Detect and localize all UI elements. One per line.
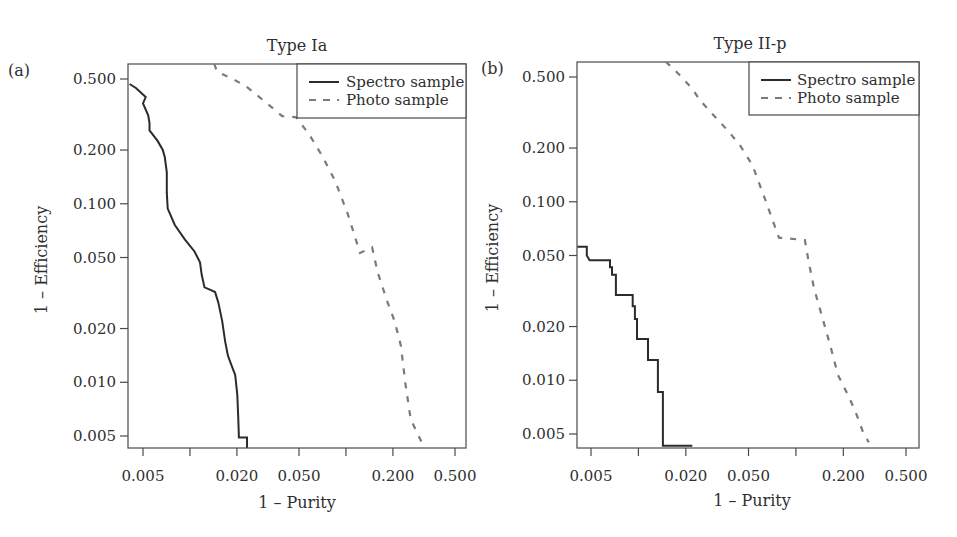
chart-canvas: (a) Type Ia 1 – Purity 1 – Efficiency 0.…	[0, 0, 957, 537]
x-tick-label: 0.200	[371, 467, 414, 485]
x-tick-label: 0.020	[215, 467, 258, 485]
series-group	[577, 62, 868, 446]
y-axis: 0.5000.2000.1000.0500.0200.0100.005	[73, 70, 128, 445]
photo-sample-line	[666, 62, 869, 443]
y-axis-title: 1 – Efficiency	[32, 206, 51, 314]
spectro-sample-line	[130, 84, 247, 448]
x-tick-label: 0.200	[822, 467, 865, 485]
panel-title: Type II-p	[714, 34, 787, 53]
legend-label-spectro: Spectro sample	[346, 73, 464, 91]
y-axis-title: 1 – Efficiency	[483, 204, 502, 312]
plot-area	[128, 64, 466, 448]
y-tick-label: 0.010	[73, 373, 116, 391]
y-tick-label: 0.200	[522, 139, 565, 157]
panel-b: (b) Type II-p 1 – Purity 1 – Efficiency …	[481, 34, 927, 510]
y-tick-label: 0.100	[522, 193, 565, 211]
y-tick-label: 0.500	[522, 68, 565, 86]
y-tick-label: 0.005	[522, 425, 565, 443]
plot-area	[577, 62, 919, 448]
y-tick-label: 0.050	[73, 249, 116, 267]
y-tick-label: 0.500	[73, 70, 116, 88]
photo-sample-line	[214, 64, 422, 445]
legend-label-photo: Photo sample	[797, 89, 900, 107]
panel-letter: (b)	[481, 59, 504, 78]
x-tick-label: 0.050	[727, 467, 770, 485]
legend-label-photo: Photo sample	[346, 91, 449, 109]
x-tick-label: 0.050	[278, 467, 321, 485]
y-tick-label: 0.005	[73, 427, 116, 445]
y-tick-label: 0.200	[73, 141, 116, 159]
x-tick-label: 0.005	[570, 467, 613, 485]
y-tick-label: 0.100	[73, 195, 116, 213]
panel-title: Type Ia	[267, 36, 328, 55]
x-tick-label: 0.020	[664, 467, 707, 485]
x-axis-title: 1 – Purity	[713, 491, 791, 510]
x-axis-title: 1 – Purity	[258, 493, 336, 512]
panel-letter: (a)	[8, 61, 30, 80]
legend: Spectro sample Photo sample	[749, 62, 919, 115]
series-group	[130, 64, 423, 448]
x-tick-label: 0.500	[434, 467, 477, 485]
figure: (a) Type Ia 1 – Purity 1 – Efficiency 0.…	[0, 0, 957, 537]
y-tick-label: 0.020	[522, 318, 565, 336]
x-axis: 0.0050.0200.0500.2000.500	[570, 448, 928, 485]
y-tick-label: 0.020	[73, 320, 116, 338]
x-axis: 0.0050.0200.0500.2000.500	[122, 448, 477, 485]
panel-a: (a) Type Ia 1 – Purity 1 – Efficiency 0.…	[8, 36, 476, 512]
legend: Spectro sample Photo sample	[297, 64, 466, 118]
x-tick-label: 0.005	[122, 467, 165, 485]
legend-label-spectro: Spectro sample	[797, 71, 915, 89]
y-axis: 0.5000.2000.1000.0500.0200.0100.005	[522, 68, 577, 443]
spectro-sample-line	[577, 247, 692, 446]
y-tick-label: 0.010	[522, 371, 565, 389]
x-tick-label: 0.500	[885, 467, 928, 485]
y-tick-label: 0.050	[522, 247, 565, 265]
